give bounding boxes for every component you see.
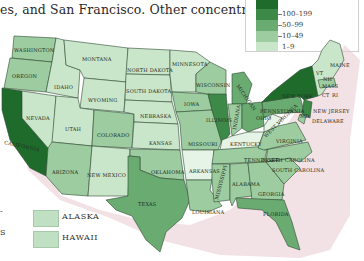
inset-swatch-hawaii — [33, 231, 59, 248]
label-utah: UTAH — [65, 126, 81, 132]
left-text-fragment: - — [0, 207, 3, 216]
label-delaware: DELAWARE — [312, 118, 344, 124]
state-new-mexico — [88, 146, 130, 196]
label-maine: MAINE — [330, 62, 350, 68]
label-arizona: ARIZONA — [51, 169, 78, 175]
label-kansas: KANSAS — [149, 140, 173, 146]
label-wisconsin: WISCONSIN — [196, 82, 231, 88]
label-minnesota: MINNESOTA — [172, 61, 208, 67]
label-nebraska: NEBRASKA — [140, 113, 171, 119]
state-wyoming — [80, 78, 126, 112]
label-ct: CT — [322, 92, 330, 98]
label-colorado: COLORADO — [97, 132, 129, 138]
label-md: MD — [300, 113, 310, 119]
label-missouri: MISSOURI — [188, 141, 218, 147]
label-washington: WASHINGTON — [14, 47, 55, 53]
label-georgia: GEORGIA — [258, 191, 285, 197]
label-wyoming: WYOMING — [88, 97, 117, 103]
label-montana: MONTANA — [82, 56, 112, 62]
label-oregon: OREGON — [12, 73, 38, 79]
inset-label-hawaii: HAWAII — [62, 233, 98, 242]
label-louisiana: LOUISIANA — [192, 209, 225, 215]
label-ri: RI — [332, 92, 338, 98]
label-north-dakota: NORTH DAKOTA — [127, 67, 173, 73]
label-oklahoma: OKLAHOMA — [151, 169, 185, 175]
label-pennsylvania: PENNSYLVANIA — [260, 108, 305, 114]
state-arkansas — [182, 150, 214, 180]
label-illinois: ILLINOIS — [206, 117, 232, 123]
label-north-carolina: NORTH CAROLINA — [262, 157, 315, 163]
left-text-fragment: S — [0, 228, 5, 237]
label-mass: MASS — [322, 83, 339, 89]
label-arkansas: ARKANSAS — [188, 168, 220, 174]
label-new-york: NEW YORK — [282, 93, 313, 99]
label-virginia: VIRGINIA — [275, 138, 303, 144]
label-nevada: NEVADA — [26, 115, 50, 121]
label-south-dakota: SOUTH DAKOTA — [126, 88, 172, 94]
label-nh: NH — [323, 76, 333, 82]
label-alabama: ALABAMA — [231, 181, 260, 187]
label-kentucky: KENTUCKY — [230, 141, 262, 147]
label-new-jersey: NEW JERSEY — [313, 108, 350, 115]
inset-swatch-alaska — [33, 210, 59, 227]
label-iowa: IOWA — [184, 101, 200, 107]
label-idaho: IDAHO — [54, 84, 73, 90]
label-texas: TEXAS — [138, 201, 157, 207]
label-ohio: OHIO — [256, 115, 271, 121]
label-new-mexico: NEW MEXICO — [87, 172, 126, 178]
state-colorado — [92, 110, 134, 148]
label-florida: FLORIDA — [263, 211, 289, 217]
label-south-carolina: SOUTH CAROLINA — [272, 167, 325, 173]
inset-label-alaska: ALASKA — [62, 212, 99, 221]
